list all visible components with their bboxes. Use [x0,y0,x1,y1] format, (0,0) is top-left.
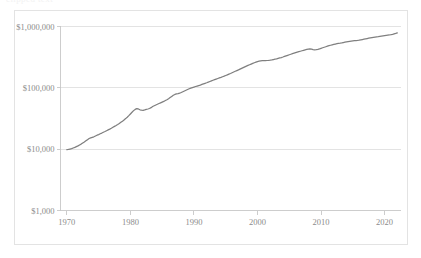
y-axis-label: $100,000 [23,83,55,93]
x-axis-label: 2000 [249,217,266,227]
y-axis-label: $1,000 [31,206,54,216]
x-axis-labels: 197019801990200020102020 [58,217,393,227]
axes [61,26,401,211]
data-line [67,33,397,150]
chart-screenshot: clipped text $1,000,000$100,000$10,000$1… [0,0,421,258]
y-axis-labels: $1,000,000$100,000$10,000$1,000 [16,22,54,216]
line-chart: $1,000,000$100,000$10,000$1,000 19701980… [0,0,421,258]
tick-marks [57,27,385,215]
x-axis-label: 1980 [122,217,139,227]
x-axis-label: 1990 [185,217,202,227]
x-axis-label: 2010 [313,217,330,227]
y-axis-label: $1,000,000 [16,22,54,32]
x-axis-label: 2020 [376,217,393,227]
data-series [67,33,397,150]
x-axis-label: 1970 [58,217,75,227]
gridlines [61,27,401,150]
y-axis-label: $10,000 [27,144,55,154]
